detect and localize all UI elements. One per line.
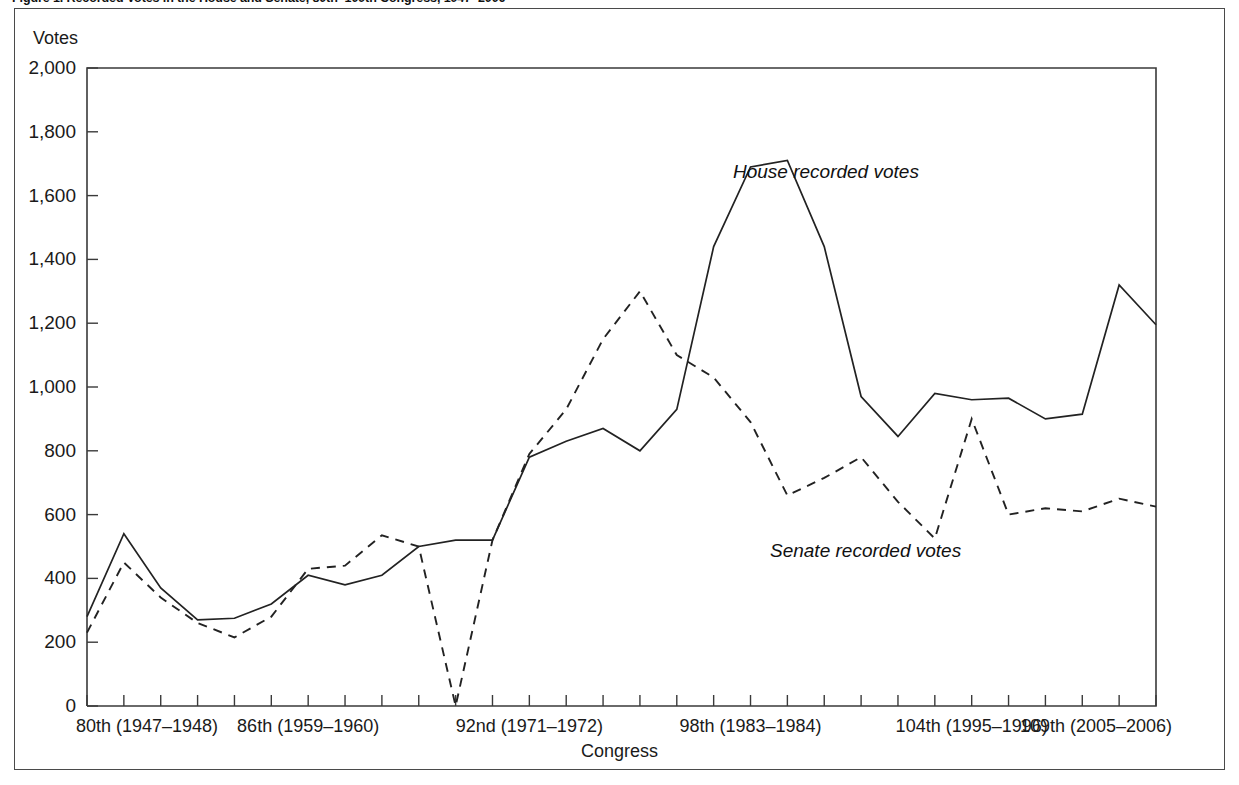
figure-root: Figure 1. Recorded Votes in the House an… [0,0,1239,785]
chart-plot-area [0,0,1239,785]
series-label-house: House recorded votes [733,161,919,183]
series-line-house-recorded-votes [87,161,1156,620]
axis-ticks [87,68,1156,706]
plot-axes [87,68,1156,706]
series-line-senate-recorded-votes [87,291,1156,706]
series-label-senate: Senate recorded votes [770,540,961,562]
